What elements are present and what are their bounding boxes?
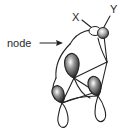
p-orbital-left-lobe-open	[58, 103, 68, 127]
p-orbital-upper	[65, 53, 79, 78]
orbital-diagram-svg	[0, 0, 120, 136]
x-label: X	[72, 12, 79, 23]
node-label: node	[7, 38, 31, 49]
p-orbital-right-lobe-open	[95, 96, 106, 122]
p-orbital-left	[52, 86, 68, 128]
p-orbital-right-lobe-shaded	[88, 76, 101, 96]
node-arrow	[40, 40, 63, 46]
y-lobe	[98, 28, 109, 39]
orbital-diagram: node X Y	[0, 0, 120, 136]
p-orbital-upper-lobe-shaded	[65, 53, 79, 78]
bond-curve-lower	[62, 96, 98, 103]
p-orbital-right	[88, 76, 106, 121]
y-label: Y	[110, 4, 117, 15]
p-orbital-left-lobe-shaded	[52, 86, 64, 103]
y-bond-line	[104, 16, 110, 27]
x-bond-line	[82, 20, 92, 28]
xy-atom-pair	[89, 27, 109, 39]
